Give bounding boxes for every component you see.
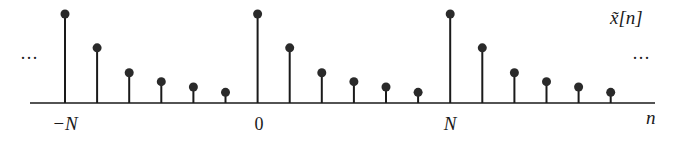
stem-marker	[317, 68, 326, 77]
stems-group	[61, 10, 616, 104]
stem-marker	[221, 88, 230, 97]
stem-marker	[285, 43, 294, 52]
stem-marker	[157, 77, 166, 86]
stem-marker	[606, 88, 615, 97]
plot-canvas: ··· ··· −N 0 N n x̃[n]	[0, 0, 673, 168]
stem-marker	[189, 82, 198, 91]
stem-marker	[61, 10, 70, 19]
signal-label: x̃[n]	[609, 7, 643, 28]
stem-marker	[542, 77, 551, 86]
stem-marker	[125, 68, 134, 77]
tick-label-minus-n: −N	[52, 113, 79, 134]
periodic-sequence-stem-plot: ··· ··· −N 0 N n x̃[n]	[0, 0, 673, 168]
stem-marker	[446, 10, 455, 19]
stem-marker	[349, 77, 358, 86]
tick-label-zero: 0	[255, 114, 264, 134]
ellipsis-right: ···	[632, 48, 650, 68]
ellipsis-left: ···	[20, 48, 38, 68]
tick-label-n: N	[443, 113, 458, 134]
stem-marker	[382, 82, 391, 91]
stem-marker	[253, 10, 262, 19]
stem-marker	[574, 82, 583, 91]
stem-marker	[478, 43, 487, 52]
stem-marker	[93, 43, 102, 52]
stem-marker	[510, 68, 519, 77]
stem-marker	[414, 88, 423, 97]
axis-label-n: n	[646, 107, 656, 128]
